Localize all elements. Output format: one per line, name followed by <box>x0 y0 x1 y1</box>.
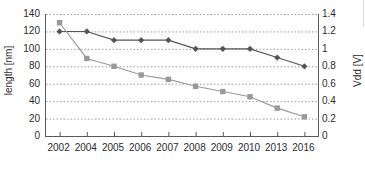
right-tick-label: 0.4 <box>322 96 336 106</box>
data-point-diamond <box>111 37 117 43</box>
x-tick-label: 2007 <box>156 142 178 154</box>
x-tick-label: 2008 <box>183 142 205 154</box>
x-tick-label: 2002 <box>47 142 69 154</box>
plot-area <box>45 14 319 137</box>
left-tick-label: 140 <box>23 9 40 19</box>
series-line-2 <box>60 23 305 117</box>
x-tick-label: 2009 <box>211 142 233 154</box>
right-tick-label: 0.2 <box>322 114 336 124</box>
data-point-square <box>139 72 144 77</box>
right-axis-tick-labels: 00.20.40.60.811.21.4 <box>318 0 342 140</box>
right-tick-label: 0 <box>322 131 328 141</box>
data-point-diamond <box>138 37 144 43</box>
x-tick-label: 2006 <box>129 142 151 154</box>
left-tick-label: 80 <box>29 61 40 71</box>
data-point-diamond <box>165 37 171 43</box>
edge-artifact <box>363 0 364 26</box>
right-tick-label: 0.8 <box>322 61 336 71</box>
data-point-square <box>220 89 225 94</box>
left-tick-label: 40 <box>29 96 40 106</box>
plot-svg <box>46 14 318 136</box>
right-tick-label: 1.4 <box>322 9 336 19</box>
chart-container: length [nm] Vdd [V] 020406080100120140 0… <box>0 0 365 173</box>
x-tick-label: 2004 <box>75 142 97 154</box>
left-tick-label: 100 <box>23 44 40 54</box>
x-tick-label: 2013 <box>265 142 287 154</box>
left-axis-title-text: length [nm] <box>4 45 15 94</box>
data-point-square <box>84 56 89 61</box>
x-tick-label: 2010 <box>238 142 260 154</box>
left-tick-label: 0 <box>34 131 40 141</box>
data-point-square <box>57 20 62 25</box>
x-tick-label: 2016 <box>292 142 314 154</box>
data-point-diamond <box>301 63 307 69</box>
left-tick-label: 120 <box>23 26 40 36</box>
x-axis-tick-labels: 2002200420052006200720082009201020132016 <box>45 142 319 160</box>
data-point-square <box>111 64 116 69</box>
data-point-diamond <box>274 54 280 60</box>
right-tick-label: 1.2 <box>322 26 336 36</box>
right-tick-label: 0.6 <box>322 79 336 89</box>
data-point-square <box>166 77 171 82</box>
left-axis-tick-labels: 020406080100120140 <box>16 0 42 140</box>
data-point-diamond <box>220 46 226 52</box>
data-point-square <box>275 105 280 110</box>
data-point-square <box>193 84 198 89</box>
right-axis-title-text: Vdd [V] <box>352 54 363 87</box>
data-point-diamond <box>193 46 199 52</box>
data-point-square <box>247 94 252 99</box>
right-tick-label: 1 <box>322 44 328 54</box>
data-point-diamond <box>84 28 90 34</box>
left-tick-label: 60 <box>29 79 40 89</box>
data-point-square <box>302 114 307 119</box>
data-point-diamond <box>247 46 253 52</box>
left-tick-label: 20 <box>29 114 40 124</box>
data-point-diamond <box>57 28 63 34</box>
x-tick-label: 2005 <box>102 142 124 154</box>
